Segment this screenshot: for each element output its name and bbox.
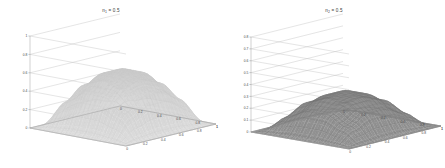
svg-text:0.2: 0.2 xyxy=(138,110,143,114)
svg-text:0.8: 0.8 xyxy=(23,53,28,57)
svg-text:0.4: 0.4 xyxy=(23,89,28,93)
left-surface-mesh xyxy=(30,69,216,146)
svg-text:1: 1 xyxy=(216,125,218,129)
svg-text:1: 1 xyxy=(26,34,28,38)
svg-text:0.6: 0.6 xyxy=(244,59,249,63)
svg-text:0.5: 0.5 xyxy=(244,71,249,75)
svg-text:0: 0 xyxy=(126,147,128,151)
svg-text:0.4: 0.4 xyxy=(157,114,162,118)
svg-text:0.6: 0.6 xyxy=(401,120,406,124)
svg-text:0.1: 0.1 xyxy=(244,118,249,122)
svg-text:0.6: 0.6 xyxy=(23,71,28,75)
left-surface-svg: 00.20.40.60.8100.20.40.60.8100.20.40.60.… xyxy=(0,0,222,168)
svg-text:0.8: 0.8 xyxy=(244,35,249,39)
svg-text:0.4: 0.4 xyxy=(381,116,386,120)
left-plot-panel: n1 = 0.5 00.20.40.60.8100.20.40.60.8100.… xyxy=(0,0,222,168)
svg-text:0.3: 0.3 xyxy=(244,95,249,99)
svg-text:0.4: 0.4 xyxy=(244,83,249,87)
svg-text:0.7: 0.7 xyxy=(244,47,249,51)
svg-text:0: 0 xyxy=(26,126,28,130)
svg-text:0.4: 0.4 xyxy=(385,140,390,144)
svg-text:0.8: 0.8 xyxy=(422,131,427,135)
svg-text:0.2: 0.2 xyxy=(361,113,366,117)
right-surface-mesh xyxy=(251,90,441,149)
svg-text:0.2: 0.2 xyxy=(366,145,371,149)
figure-root: n1 = 0.5 00.20.40.60.8100.20.40.60.8100.… xyxy=(0,0,445,168)
svg-text:0.6: 0.6 xyxy=(179,133,184,137)
svg-text:1: 1 xyxy=(441,127,443,131)
svg-text:0: 0 xyxy=(349,150,351,154)
svg-text:0.6: 0.6 xyxy=(176,117,181,121)
svg-text:0.8: 0.8 xyxy=(420,123,425,127)
svg-text:0: 0 xyxy=(343,110,345,114)
svg-text:0: 0 xyxy=(120,107,122,111)
right-plot-panel: n2 = 0.5 00.10.20.30.40.50.60.70.800.20.… xyxy=(223,0,445,168)
svg-text:0.4: 0.4 xyxy=(161,138,166,142)
svg-text:0.6: 0.6 xyxy=(403,136,408,140)
svg-text:0.8: 0.8 xyxy=(197,129,202,133)
svg-text:0.2: 0.2 xyxy=(244,106,249,110)
svg-text:0: 0 xyxy=(247,130,249,134)
svg-text:0.8: 0.8 xyxy=(196,121,201,125)
svg-text:0.2: 0.2 xyxy=(143,142,148,146)
right-surface-svg: 00.10.20.30.40.50.60.70.800.20.40.60.810… xyxy=(223,0,445,168)
svg-text:0.2: 0.2 xyxy=(23,108,28,112)
